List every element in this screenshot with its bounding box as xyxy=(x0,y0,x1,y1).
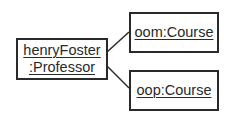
object-name: henryFoster xyxy=(23,42,100,59)
object-label: oom:Course xyxy=(135,24,214,41)
object-label: oop:Course xyxy=(137,82,212,99)
link-henryfoster-oop xyxy=(107,66,129,88)
object-oom-course[interactable]: oom:Course xyxy=(129,12,219,53)
object-oop-course[interactable]: oop:Course xyxy=(129,70,219,111)
object-henryfoster-professor[interactable]: henryFoster :Professor xyxy=(16,38,108,80)
object-class: :Professor xyxy=(29,59,95,76)
link-henryfoster-oom xyxy=(107,32,129,52)
